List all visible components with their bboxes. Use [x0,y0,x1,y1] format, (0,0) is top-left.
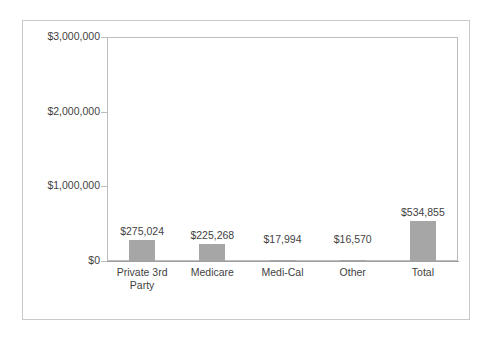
bar[interactable] [410,221,436,261]
x-axis-category-label: Total [381,266,465,279]
y-axis-tick-mark [101,261,107,262]
bar[interactable] [340,260,366,262]
bar-chart-figure: $3,000,000$2,000,000$1,000,000$0 $275,02… [0,0,491,338]
x-axis-category-labels: Private 3rd PartyMedicareMedi-CalOtherTo… [107,266,458,312]
y-axis-tick-label: $0 [14,255,100,266]
y-axis-tick-label: $2,000,000 [14,106,100,117]
bar-value-label: $225,268 [190,229,234,241]
bars-layer: $275,024$225,268$17,994$16,570$534,855 [107,37,458,261]
bar-value-label: $534,855 [401,206,445,218]
y-axis-tick-label: $3,000,000 [14,31,100,42]
bar-value-label: $16,570 [334,233,372,245]
y-axis-tick-label: $1,000,000 [14,180,100,191]
bar[interactable] [199,244,225,261]
bar-value-label: $17,994 [264,233,302,245]
bar[interactable] [270,260,296,262]
bar-value-label: $275,024 [120,225,164,237]
x-axis-line [107,261,459,262]
y-axis-labels: $3,000,000$2,000,000$1,000,000$0 [8,0,100,338]
bar[interactable] [129,240,155,261]
